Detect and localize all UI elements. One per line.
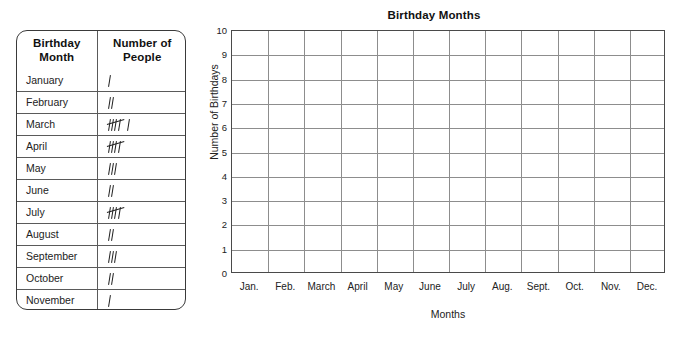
- x-axis-tick-label: Jan.: [231, 281, 267, 297]
- cell-tally-count: [97, 157, 186, 179]
- x-axis-label: Months: [231, 308, 665, 320]
- y-axis-tick-label: 7: [203, 97, 227, 108]
- grid-line-vertical: [413, 31, 414, 272]
- x-axis-tick-label: Oct.: [557, 281, 593, 297]
- cell-tally-count: [97, 113, 186, 135]
- grid-line-horizontal: [232, 128, 664, 129]
- cell-month: October: [17, 267, 97, 289]
- table-row: May: [17, 157, 186, 179]
- column-header-line-1: Number of: [113, 37, 171, 49]
- table-row: July: [17, 201, 186, 223]
- x-axis-tick-label: March: [303, 281, 339, 297]
- y-axis-tick-label: 3: [203, 195, 227, 206]
- tally-mark-group: [108, 272, 118, 286]
- grid-line-vertical: [268, 31, 269, 272]
- y-axis-tick-label: 0: [203, 268, 227, 279]
- cell-tally-count: [97, 69, 186, 91]
- grid-line-vertical: [521, 31, 522, 272]
- chart-title: Birthday Months: [200, 9, 668, 21]
- tally-mark-group: [108, 118, 125, 132]
- tally-mark-group: [108, 96, 118, 110]
- table-row: April: [17, 135, 186, 157]
- cell-tally-count: [97, 289, 186, 310]
- y-axis-tick-label: 1: [203, 243, 227, 254]
- tally-mark-group: [108, 74, 114, 88]
- table-row: November: [17, 289, 186, 310]
- grid-line-vertical: [558, 31, 559, 272]
- cell-month: January: [17, 69, 97, 91]
- cell-month: March: [17, 113, 97, 135]
- grid-line-horizontal: [232, 250, 664, 251]
- table-header-row: Birthday Month Number of People: [17, 31, 186, 69]
- table-row: February: [17, 91, 186, 113]
- grid-line-horizontal: [232, 153, 664, 154]
- cell-tally-count: [97, 179, 186, 201]
- cell-month: June: [17, 179, 97, 201]
- x-axis-tick-label: July: [448, 281, 484, 297]
- cell-month: May: [17, 157, 97, 179]
- column-header-number-of-people: Number of People: [97, 31, 186, 69]
- cell-tally-count: [97, 223, 186, 245]
- column-header-line-1: Birthday: [33, 37, 80, 49]
- y-axis-tick-label: 2: [203, 219, 227, 230]
- grid-line-vertical: [341, 31, 342, 272]
- cell-month: April: [17, 135, 97, 157]
- cell-month: August: [17, 223, 97, 245]
- tally-mark-group: [127, 118, 133, 132]
- x-axis-tick-label: Aug.: [484, 281, 520, 297]
- tally-mark-group: [108, 250, 121, 264]
- tally-table-header: Birthday Month Number of People: [17, 31, 186, 69]
- tally-table: Birthday Month Number of People JanuaryF…: [17, 31, 186, 310]
- table-row: March: [17, 113, 186, 135]
- x-axis-tick-label: April: [340, 281, 376, 297]
- x-axis-tick-label: Dec.: [629, 281, 665, 297]
- cell-month: November: [17, 289, 97, 310]
- cell-tally-count: [97, 245, 186, 267]
- column-header-line-2: People: [98, 50, 187, 64]
- table-row: October: [17, 267, 186, 289]
- y-axis-tick-label: 5: [203, 146, 227, 157]
- column-header-line-2: Month: [17, 50, 97, 64]
- tally-mark-group: [108, 184, 118, 198]
- tally-mark-group: [108, 228, 118, 242]
- cell-tally-count: [97, 135, 186, 157]
- tally-mark-group: [108, 206, 125, 220]
- column-header-birthday-month: Birthday Month: [17, 31, 97, 69]
- y-axis-tick-label: 4: [203, 170, 227, 181]
- tally-mark-group: [108, 294, 114, 308]
- tally-table-body: JanuaryFebruaryMarchAprilMayJuneJulyAugu…: [17, 69, 186, 310]
- grid-line-vertical: [594, 31, 595, 272]
- cell-month: September: [17, 245, 97, 267]
- grid-line-horizontal: [232, 177, 664, 178]
- x-axis-tick-label: Sept.: [520, 281, 556, 297]
- table-row: August: [17, 223, 186, 245]
- grid-line-horizontal: [232, 201, 664, 202]
- cell-month: February: [17, 91, 97, 113]
- cell-tally-count: [97, 91, 186, 113]
- tally-mark-group: [108, 140, 125, 154]
- cell-tally-count: [97, 201, 186, 223]
- table-row: September: [17, 245, 186, 267]
- grid-line-horizontal: [232, 225, 664, 226]
- y-axis-tick-label: 9: [203, 49, 227, 60]
- y-axis-tick-label: 8: [203, 73, 227, 84]
- grid-line-vertical: [304, 31, 305, 272]
- tally-mark-group: [108, 162, 121, 176]
- table-row: January: [17, 69, 186, 91]
- grid-line-vertical: [377, 31, 378, 272]
- x-axis-tick-labels: Jan.Feb.MarchAprilMayJuneJulyAug.Sept.Oc…: [231, 281, 665, 297]
- grid-line-horizontal: [232, 104, 664, 105]
- y-axis-tick-label: 10: [203, 25, 227, 36]
- x-axis-tick-label: June: [412, 281, 448, 297]
- x-axis-tick-label: Nov.: [593, 281, 629, 297]
- y-axis-tick-label: 6: [203, 122, 227, 133]
- grid-line-vertical: [630, 31, 631, 272]
- tally-table-panel: Birthday Month Number of People JanuaryF…: [16, 30, 186, 310]
- x-axis-tick-label: Feb.: [267, 281, 303, 297]
- grid-line-horizontal: [232, 80, 664, 81]
- y-axis-tick-labels: 109876543210: [200, 30, 227, 273]
- grid-line-vertical: [485, 31, 486, 272]
- cell-month: July: [17, 201, 97, 223]
- x-axis-tick-label: May: [376, 281, 412, 297]
- table-row: June: [17, 179, 186, 201]
